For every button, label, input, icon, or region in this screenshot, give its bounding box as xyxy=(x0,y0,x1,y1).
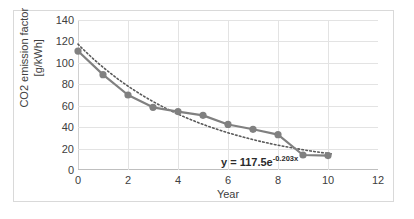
data-series-svg xyxy=(78,20,378,170)
data-point-marker xyxy=(99,71,106,78)
data-line-path xyxy=(78,51,328,155)
chart-figure: 140 120 100 80 60 40 20 0 CO2 emission f… xyxy=(0,0,414,219)
data-point-marker xyxy=(199,112,206,119)
data-point-marker xyxy=(249,126,256,133)
x-tick-label: 10 xyxy=(322,174,334,186)
data-point-marker xyxy=(274,131,281,138)
x-tick-label: 8 xyxy=(275,174,281,186)
x-tick-label: 12 xyxy=(372,174,384,186)
y-tick-label: 40 xyxy=(62,121,74,133)
x-axis-title: Year xyxy=(78,188,378,200)
x-tick-label: 0 xyxy=(75,174,81,186)
data-point-marker xyxy=(224,121,231,128)
data-point-marker xyxy=(74,47,81,54)
y-tick-label: 80 xyxy=(62,78,74,90)
x-tick-label: 2 xyxy=(125,174,131,186)
y-axis-title-line1: CO2 emission factor xyxy=(18,8,30,108)
data-point-markers xyxy=(74,47,331,159)
data-point-marker xyxy=(174,108,181,115)
trendline-equation-label: y = 117.5e-0.203x xyxy=(221,154,298,168)
data-point-marker xyxy=(324,152,331,159)
y-tick-label: 140 xyxy=(56,14,74,26)
data-point-marker xyxy=(124,91,131,98)
data-point-marker xyxy=(299,151,306,158)
y-tick-label: 100 xyxy=(56,57,74,69)
equation-exponent-text: -0.203x xyxy=(273,154,298,163)
x-tick-label: 4 xyxy=(175,174,181,186)
y-tick-label: 60 xyxy=(62,100,74,112)
y-tick-label: 120 xyxy=(56,35,74,47)
trendline-path xyxy=(78,44,333,154)
data-point-marker xyxy=(149,104,156,111)
y-axis-title: CO2 emission factor [g/kWh] xyxy=(18,0,46,134)
y-axis-title-line2: [g/kWh] xyxy=(32,39,44,76)
y-tick-label: 20 xyxy=(62,143,74,155)
equation-main-text: y = 117.5e xyxy=(221,156,273,168)
x-tick-label: 6 xyxy=(225,174,231,186)
y-tick-label: 0 xyxy=(68,164,74,176)
plot-area: y = 117.5e-0.203x xyxy=(78,20,378,170)
